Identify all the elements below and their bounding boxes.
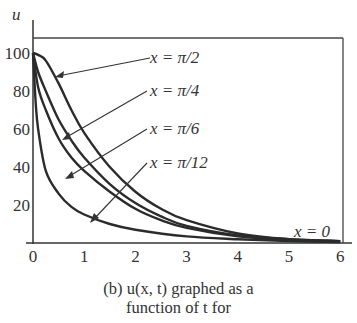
caption-line-1: (b) u(x, t) graphed as a — [0, 279, 357, 298]
svg-text:x = π/4: x = π/4 — [149, 81, 200, 100]
y-tick-label: 60 — [13, 120, 30, 139]
caption-line-2: function of t for — [0, 298, 357, 317]
y-tick-label: 80 — [13, 82, 30, 101]
y-axis-label: u — [12, 5, 21, 24]
svg-text:x = π/12: x = π/12 — [149, 153, 208, 172]
annotation-pi-2: x = π/2 — [55, 48, 200, 78]
x-tick-label: 2 — [131, 247, 140, 266]
svg-text:x = π/6: x = π/6 — [149, 119, 200, 138]
x-tick-label: 5 — [285, 247, 294, 266]
annotation-zero: x = 0 — [293, 222, 331, 241]
y-tick-label: 20 — [13, 196, 30, 215]
x-tick-label: 0 — [29, 247, 38, 266]
y-tick-label: 100 — [5, 44, 31, 63]
x-tick-label: 6 — [336, 247, 345, 266]
svg-text:x = π/2: x = π/2 — [149, 48, 200, 67]
x-tick-label: 3 — [182, 247, 191, 266]
x-tick-label: 1 — [80, 247, 89, 266]
y-tick-label: 40 — [13, 158, 30, 177]
x-tick-labels: 0123456 — [29, 247, 345, 266]
y-tick-labels: 20406080100 — [5, 44, 31, 215]
chart: u 20406080100 0123456 x = π/2 x = π/4 x … — [0, 0, 357, 323]
x-tick-label: 4 — [234, 247, 243, 266]
